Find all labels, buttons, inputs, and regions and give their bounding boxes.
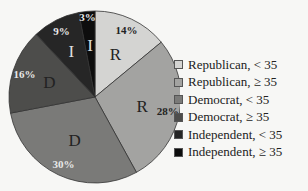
slice-percent-label: 14% (116, 24, 138, 36)
slice-inner-label: D (68, 131, 80, 150)
legend-label: Democrat, < 35 (188, 92, 269, 108)
legend-item: Independent, ≥ 35 (174, 144, 282, 162)
slice-inner-label: I (69, 42, 75, 61)
slice-percent-label: 30% (52, 158, 74, 170)
slice-inner-label: R (136, 97, 148, 116)
legend-label: Republican, < 35 (188, 57, 277, 73)
legend-item: Democrat, < 35 (174, 91, 282, 109)
pie-chart: R14%R28%D30%D16%I9%I3% (0, 0, 180, 191)
legend-item: Democrat, ≥ 35 (174, 109, 282, 127)
legend-label: Independent, < 35 (188, 127, 282, 143)
legend-label: Republican, ≥ 35 (188, 74, 277, 90)
slice-percent-label: 9% (53, 25, 70, 37)
legend-swatch (174, 78, 183, 87)
slice-percent-label: 3% (79, 11, 96, 23)
legend-swatch (174, 148, 183, 157)
slice-inner-label: R (110, 45, 122, 64)
slice-inner-label: I (87, 36, 93, 55)
legend-item: Republican, ≥ 35 (174, 74, 282, 92)
legend-label: Democrat, ≥ 35 (188, 109, 269, 125)
legend-label: Independent, ≥ 35 (188, 144, 282, 160)
slice-percent-label: 16% (14, 68, 36, 80)
legend-swatch (174, 130, 183, 139)
legend-item: Independent, < 35 (174, 126, 282, 144)
slice-inner-label: D (43, 73, 55, 92)
legend-swatch (174, 95, 183, 104)
legend: Republican, < 35 Republican, ≥ 35 Democr… (174, 56, 282, 161)
legend-swatch (174, 60, 183, 69)
legend-item: Republican, < 35 (174, 56, 282, 74)
legend-swatch (174, 113, 183, 122)
